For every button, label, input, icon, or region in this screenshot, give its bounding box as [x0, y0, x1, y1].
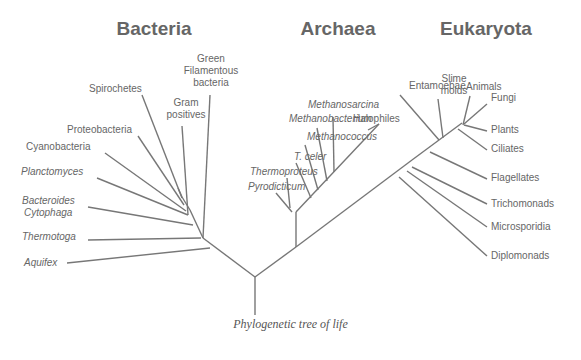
leaf-branch-slime-molds [438, 99, 443, 138]
leaf-label-gram-positives: Gram [174, 97, 199, 108]
leaf-label-slime-molds: molds [441, 85, 468, 96]
leaf-branch-diplomonads [399, 177, 487, 256]
internal-branch [190, 210, 203, 238]
leaf-branch-proteobacteria [138, 136, 184, 205]
leaf-branch-aquifex [67, 248, 210, 263]
internal-branch [255, 247, 296, 277]
leaf-branch-flagellates [430, 152, 487, 179]
leaf-labels: AquifexThermotogaBacteroidesCytophagaPla… [21, 53, 554, 268]
leaf-label-planctomyces: Planctomyces [21, 166, 83, 177]
leaf-label-thermoproteus: Thermoproteus [250, 166, 318, 177]
domain-title-archaea: Archaea [301, 18, 376, 39]
leaf-label-flagellates: Flagellates [491, 172, 539, 183]
leaf-branch-cyanobacteria [105, 153, 186, 211]
leaf-label-gram-positives: positives [167, 109, 206, 120]
leaf-label-methanococcus: Methanococcus [307, 131, 377, 142]
leaf-branch-thermotoga [88, 238, 201, 240]
domain-title-eukaryota: Eukaryota [440, 18, 532, 39]
leaf-label-cytophaga: Cytophaga [24, 207, 73, 218]
internal-branch [203, 238, 255, 277]
leaf-label-t-celer: T. celer [294, 151, 327, 162]
domain-titles: BacteriaArchaeaEukaryota [117, 18, 533, 39]
leaf-label-fungi: Fungi [491, 92, 516, 103]
leaf-label-ciliates: Ciliates [491, 143, 524, 154]
leaf-branch-microsporidia [407, 171, 487, 227]
domain-title-bacteria: Bacteria [117, 18, 192, 39]
leaf-branch-planctomyces [97, 178, 188, 215]
leaf-label-thermotoga: Thermotoga [22, 231, 76, 242]
leaf-label-cyanobacteria: Cyanobacteria [26, 141, 91, 152]
leaf-label-green-filamentous-bacteria: Filamentous [184, 65, 238, 76]
leaf-branch-entamoebae [400, 95, 439, 140]
leaf-branch-ciliates [458, 129, 487, 150]
leaf-label-halophiles: Halophiles [353, 113, 400, 124]
leaf-label-aquifex: Aquifex [23, 257, 58, 268]
leaf-label-animals: Animals [466, 81, 502, 92]
leaf-label-slime-molds: Slime [441, 73, 466, 84]
leaf-branch-plants [464, 125, 487, 131]
leaf-label-plants: Plants [491, 124, 519, 135]
leaf-label-methanosarcina: Methanosarcina [308, 99, 380, 110]
leaf-label-green-filamentous-bacteria: Green [197, 53, 225, 64]
leaf-label-diplomonads: Diplomonads [491, 250, 549, 261]
leaf-branch-animals [463, 96, 470, 125]
internal-branch [412, 123, 462, 160]
leaf-label-bacteroides: Bacteroides [22, 195, 75, 206]
leaf-label-pyrodicticum: Pyrodicticum [248, 181, 305, 192]
figure-caption: Phylogenetic tree of life [0, 317, 581, 332]
leaf-branch-bacteroides [88, 207, 193, 225]
leaf-label-green-filamentous-bacteria: bacteria [193, 77, 229, 88]
leaf-branches [67, 95, 487, 263]
phylogenetic-tree: BacteriaArchaeaEukaryota AquifexThermoto… [0, 0, 581, 360]
leaf-branch-methanosarcina [333, 117, 334, 172]
leaf-label-proteobacteria: Proteobacteria [67, 124, 132, 135]
leaf-label-spirochetes: Spirochetes [89, 83, 142, 94]
leaf-label-trichomonads: Trichomonads [491, 198, 554, 209]
leaf-label-microsporidia: Microsporidia [491, 221, 551, 232]
